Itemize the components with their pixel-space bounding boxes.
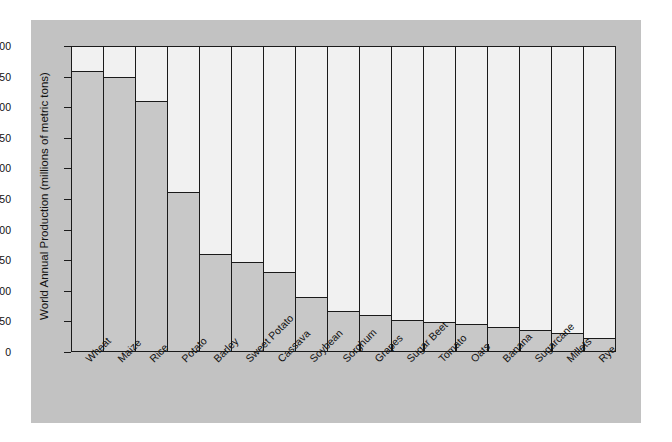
- y-axis-tick-mark: [64, 199, 71, 200]
- x-axis-tick-mark: [424, 344, 425, 352]
- bar-column: [264, 47, 296, 351]
- x-axis-tick-mark: [135, 344, 136, 352]
- x-axis-tick-mark: [263, 344, 264, 352]
- plot-area: [71, 46, 616, 352]
- bar-column: [360, 47, 392, 351]
- x-axis-tick-mark: [360, 344, 361, 352]
- x-axis-tick-mark: [327, 344, 328, 352]
- bar: [136, 101, 167, 351]
- bar-series: [72, 47, 615, 351]
- y-axis-tick-mark: [64, 321, 71, 322]
- x-axis-tick-mark: [584, 344, 585, 352]
- y-axis-tick-label: 300: [0, 162, 11, 174]
- y-axis-tick-mark: [64, 77, 71, 78]
- x-axis-tick-mark: [552, 344, 553, 352]
- y-axis-tick-mark: [64, 168, 71, 169]
- bar-column: [584, 47, 615, 351]
- x-axis-tick-mark: [456, 344, 457, 352]
- y-axis-tick-label: 100: [0, 285, 11, 297]
- y-axis-tick-label: 150: [0, 254, 11, 266]
- y-axis-tick-mark: [64, 107, 71, 108]
- bar-column: [456, 47, 488, 351]
- x-axis-tick-mark: [231, 344, 232, 352]
- bar-column: [392, 47, 424, 351]
- y-axis-tick-mark: [64, 46, 71, 47]
- y-axis-tick-label: 250: [0, 193, 11, 205]
- bar: [72, 71, 103, 351]
- x-axis: WheatMaizeRicePotatoBarleySweet PotatoCa…: [71, 352, 616, 442]
- bar-column: [72, 47, 104, 351]
- y-axis-tick-label: 350: [0, 132, 11, 144]
- bar: [200, 254, 231, 351]
- y-axis-tick-label: 200: [0, 224, 11, 236]
- x-axis-tick-mark: [392, 344, 393, 352]
- bar: [168, 192, 199, 351]
- bar-column: [104, 47, 136, 351]
- y-axis-tick-label: 450: [0, 71, 11, 83]
- y-axis-tick-mark: [64, 138, 71, 139]
- y-axis: World Annual Production (millions of met…: [0, 0, 71, 398]
- chart-figure: World Annual Production (millions of met…: [0, 0, 672, 442]
- y-axis-tick-mark: [64, 291, 71, 292]
- y-axis-tick-mark: [64, 352, 71, 353]
- x-axis-tick-mark: [103, 344, 104, 352]
- bar-column: [552, 47, 584, 351]
- bar-column: [168, 47, 200, 351]
- bar-column: [200, 47, 232, 351]
- x-axis-tick-mark: [199, 344, 200, 352]
- y-axis-title: World Annual Production (millions of met…: [38, 46, 50, 346]
- x-axis-tick-mark: [295, 344, 296, 352]
- bar-column: [520, 47, 552, 351]
- y-axis-tick-mark: [64, 230, 71, 231]
- x-axis-tick-mark: [520, 344, 521, 352]
- bar-column: [488, 47, 520, 351]
- y-axis-tick-label: 50: [0, 315, 11, 327]
- y-axis-tick-label: 0: [0, 346, 11, 358]
- x-axis-tick-mark: [488, 344, 489, 352]
- y-axis-tick-mark: [64, 260, 71, 261]
- bar-column: [424, 47, 456, 351]
- bar-column: [296, 47, 328, 351]
- y-axis-tick-label: 400: [0, 101, 11, 113]
- x-axis-tick-mark: [167, 344, 168, 352]
- bar: [104, 77, 135, 351]
- bar-column: [328, 47, 360, 351]
- bar-column: [232, 47, 264, 351]
- y-axis-tick-label: 500: [0, 40, 11, 52]
- bar: [232, 262, 263, 351]
- bar-column: [136, 47, 168, 351]
